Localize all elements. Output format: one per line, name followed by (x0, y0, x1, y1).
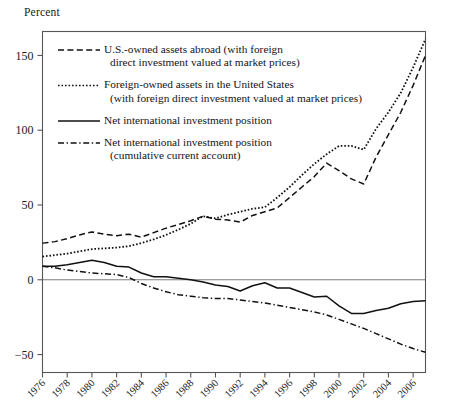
x-tick-label: 2004 (371, 377, 394, 400)
y-tick-label: 100 (16, 123, 34, 137)
x-tick-label: 1992 (222, 377, 245, 400)
legend-label-1: U.S.-owned assets abroad (with foreign (104, 43, 283, 56)
x-tick-label: 1986 (148, 377, 171, 400)
x-tick-label: 1988 (173, 377, 196, 400)
series-line-3 (43, 260, 426, 313)
x-tick-label: 2000 (321, 377, 344, 400)
y-tick-label: 150 (16, 49, 34, 63)
legend-label-2-cont: (with foreign direct investment valued a… (110, 92, 362, 105)
legend-label-4-cont: (cumulative current account) (110, 149, 241, 162)
y-axis-ticks (38, 55, 43, 354)
x-tick-label: 1982 (99, 377, 122, 400)
x-tick-label: 2006 (395, 377, 418, 400)
legend-label-2: Foreign-owned assets in the United State… (104, 78, 294, 90)
x-tick-label: 2002 (346, 377, 369, 400)
series-line-4 (43, 266, 426, 352)
y-tick-label: 0 (28, 273, 34, 287)
legend-label-1-cont: direct investment valued at market price… (110, 56, 300, 69)
chart-legend: U.S.-owned assets abroad (with foreigndi… (58, 43, 362, 163)
x-tick-label: 1980 (74, 377, 97, 400)
line-chart: 150100500−50 197619781980198219841986198… (0, 0, 450, 415)
y-axis-tick-labels: 150100500−50 (15, 49, 34, 362)
legend-label-3: Net international investment position (104, 114, 272, 126)
y-tick-label: −50 (15, 348, 34, 362)
x-tick-label: 1984 (124, 377, 147, 400)
series-line-2 (43, 39, 426, 257)
x-axis-ticks (43, 373, 414, 378)
x-tick-label: 1998 (297, 377, 320, 400)
x-axis-tick-labels: 1976197819801982198419861988199019921994… (25, 377, 418, 400)
legend-label-4: Net international investment position (104, 136, 272, 148)
figure-container: Percent 150100500−50 1976197819801982198… (0, 0, 450, 415)
y-tick-label: 50 (22, 198, 34, 212)
x-tick-label: 1996 (272, 377, 295, 400)
x-tick-label: 1976 (25, 377, 48, 400)
x-tick-label: 1990 (198, 377, 221, 400)
x-tick-label: 1978 (49, 377, 72, 400)
x-tick-label: 1994 (247, 377, 270, 400)
